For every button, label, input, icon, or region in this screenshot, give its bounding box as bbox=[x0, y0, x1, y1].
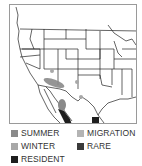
resident-range-east bbox=[92, 117, 99, 124]
winter-swatch-icon bbox=[11, 143, 18, 150]
summer-spot-new-mexico bbox=[75, 80, 79, 84]
legend-label-resident: RESIDENT bbox=[21, 154, 65, 164]
migration-swatch-icon bbox=[77, 130, 84, 137]
range-map bbox=[9, 4, 137, 124]
legend-item-migration: MIGRATION bbox=[77, 128, 135, 138]
summer-spot-utah bbox=[50, 69, 54, 73]
legend-item-winter: WINTER bbox=[11, 141, 55, 151]
map-lines bbox=[10, 5, 137, 124]
legend-item-summer: SUMMER bbox=[11, 128, 59, 138]
legend-item-rare: RARE bbox=[77, 141, 111, 151]
legend-label-migration: MIGRATION bbox=[87, 128, 135, 138]
summer-spot-texas bbox=[79, 95, 83, 99]
summer-swatch-icon bbox=[11, 130, 18, 137]
summer-range-sonora bbox=[58, 99, 66, 111]
rare-swatch-icon bbox=[77, 143, 84, 150]
legend-label-summer: SUMMER bbox=[21, 128, 59, 138]
resident-swatch-icon bbox=[11, 156, 18, 163]
legend-label-rare: RARE bbox=[87, 141, 111, 151]
legend-label-winter: WINTER bbox=[21, 141, 55, 151]
legend-item-resident: RESIDENT bbox=[11, 154, 65, 164]
map-legend: SUMMER MIGRATION WINTER RARE RESIDENT bbox=[11, 128, 141, 166]
